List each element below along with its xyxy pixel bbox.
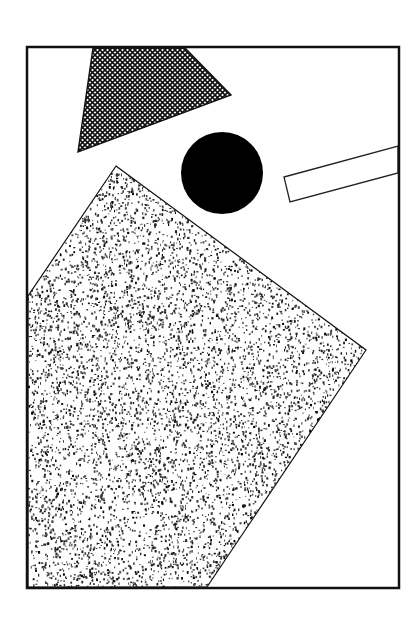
- black-circle: [181, 132, 263, 214]
- abstract-composition: [0, 0, 420, 623]
